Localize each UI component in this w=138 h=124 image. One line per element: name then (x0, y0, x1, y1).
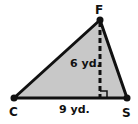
vertex-s-point (124, 95, 131, 102)
vertex-f-label: F (95, 3, 103, 17)
triangle-diagram: F C S 6 yd. 9 yd. (0, 0, 138, 124)
vertex-s-label: S (122, 106, 131, 120)
base-label: 9 yd. (59, 103, 90, 116)
vertex-f-point (97, 17, 104, 24)
vertex-c-point (11, 95, 18, 102)
vertex-c-label: C (9, 105, 18, 119)
height-label: 6 yd. (70, 57, 101, 70)
